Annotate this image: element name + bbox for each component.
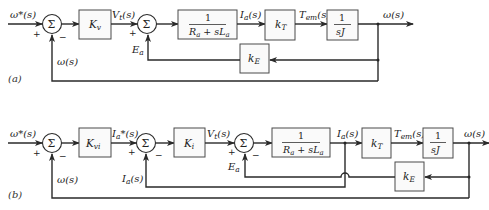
output-label-b: ω(s) bbox=[464, 128, 485, 139]
svg-text:Σ: Σ bbox=[48, 137, 56, 150]
plus-sign: + bbox=[129, 28, 137, 38]
diagram-a: ω*(s) Σ + − Kv Vt(s) + Σ 1 Ra + sLa bbox=[8, 9, 413, 84]
minus-sign: − bbox=[252, 150, 260, 160]
back-emf-block-a: kE bbox=[240, 44, 269, 73]
svg-text:sJ: sJ bbox=[431, 144, 441, 155]
back-emf-block-b: kE bbox=[395, 162, 424, 191]
svg-text:1: 1 bbox=[205, 12, 211, 23]
input-label-b: ω*(s) bbox=[10, 128, 36, 139]
svg-text:1: 1 bbox=[298, 130, 304, 141]
ia-label-b: Ia(s) bbox=[336, 128, 358, 141]
plus-sign: + bbox=[33, 148, 41, 158]
block-diagrams: ω*(s) Σ + − Kv Vt(s) + Σ 1 Ra + sLa bbox=[0, 0, 489, 210]
diagram-tag-a: (a) bbox=[8, 73, 22, 84]
minus-sign: − bbox=[59, 32, 67, 42]
feedback-ia-label-b: Ia(s) bbox=[121, 173, 143, 186]
ea-label-b: Ea bbox=[227, 161, 240, 174]
minus-sign: − bbox=[155, 150, 163, 160]
summing-junction-speed-b: Σ bbox=[43, 134, 62, 153]
input-label-a: ω*(s) bbox=[10, 9, 36, 20]
feedback-omega-label-b: ω(s) bbox=[57, 174, 78, 185]
svg-text:sJ: sJ bbox=[336, 26, 346, 37]
ia-label-a: Ia(s) bbox=[239, 9, 261, 22]
speed-controller-block-kv: Kv bbox=[79, 10, 111, 39]
output-label-a: ω(s) bbox=[383, 9, 404, 20]
plus-sign: + bbox=[33, 29, 41, 39]
plus-sign: + bbox=[128, 147, 136, 157]
ia-ref-label-b: Ia*(s) bbox=[111, 128, 138, 141]
vt-label-a: Vt(s) bbox=[112, 9, 135, 22]
feedback-omega-label-a: ω(s) bbox=[57, 56, 78, 67]
inertia-block-a: 1 sJ bbox=[327, 10, 358, 40]
svg-text:1: 1 bbox=[339, 12, 345, 23]
torque-constant-block-b: kT bbox=[362, 128, 391, 158]
speed-feedback-line bbox=[52, 35, 378, 81]
current-controller-block-ki: Ki bbox=[174, 128, 205, 157]
armature-block-b: 1 Ra + sLa bbox=[272, 128, 330, 157]
tem-label-a: Tem(s) bbox=[299, 9, 330, 22]
speed-controller-block-kvi: Kvi bbox=[79, 128, 111, 157]
ea-label-a: Ea bbox=[131, 44, 144, 57]
summing-junction-current-b: Σ bbox=[137, 134, 156, 153]
summing-junction-voltage-b: Σ bbox=[235, 134, 254, 153]
torque-constant-block-a: kT bbox=[265, 10, 295, 40]
diagram-b: ω*(s) Σ + − Kvi Ia*(s) + Σ − Ki Vt(s bbox=[8, 128, 489, 200]
summing-junction-speed-a: Σ bbox=[43, 15, 62, 34]
svg-text:Σ: Σ bbox=[142, 137, 150, 150]
minus-sign: − bbox=[59, 151, 67, 161]
summing-junction-voltage-a: Σ bbox=[138, 15, 157, 34]
svg-text:Σ: Σ bbox=[143, 18, 151, 31]
svg-text:Σ: Σ bbox=[240, 137, 248, 150]
diagram-tag-b: (b) bbox=[8, 189, 22, 200]
armature-block-a: 1 Ra + sLa bbox=[178, 10, 237, 39]
tem-label-b: Tem(s) bbox=[394, 128, 425, 141]
plus-sign: + bbox=[228, 147, 236, 157]
vt-label-b: Vt(s) bbox=[207, 128, 230, 141]
svg-text:Σ: Σ bbox=[48, 18, 56, 31]
svg-text:1: 1 bbox=[435, 130, 441, 141]
inertia-block-b: 1 sJ bbox=[423, 128, 453, 158]
